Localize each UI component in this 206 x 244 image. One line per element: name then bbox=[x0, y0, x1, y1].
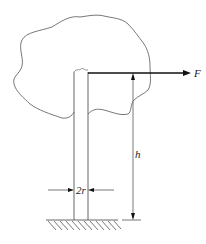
diameter-label: 2r bbox=[76, 184, 87, 196]
height-arrow-top bbox=[131, 73, 135, 80]
diameter-arrow-right-head bbox=[88, 188, 94, 192]
pole-broken-top bbox=[74, 68, 88, 72]
diameter-arrow-left-head bbox=[68, 188, 74, 192]
height-arrow-bottom bbox=[131, 213, 135, 220]
diagram-canvas: F h 2r bbox=[0, 0, 206, 244]
mass-blob bbox=[14, 15, 151, 118]
ground-hatching bbox=[48, 221, 121, 230]
force-arrow-head bbox=[183, 70, 191, 76]
force-label: F bbox=[193, 67, 201, 79]
height-label: h bbox=[135, 148, 141, 160]
